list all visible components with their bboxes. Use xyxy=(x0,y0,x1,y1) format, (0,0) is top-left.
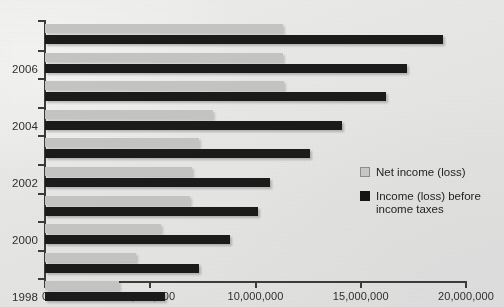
bar-pretax-income xyxy=(45,235,230,244)
y-axis-tick xyxy=(38,20,45,22)
bar-pretax-income xyxy=(45,292,165,301)
x-axis-tick xyxy=(360,281,362,288)
y-axis-label-2002: 2002 xyxy=(0,177,38,189)
bar-pretax-income xyxy=(45,207,258,216)
legend-label-net-income: Net income (loss) xyxy=(376,166,465,179)
x-axis-label-3: 15,000,000 xyxy=(333,290,389,302)
bar-pretax-income xyxy=(45,121,342,130)
bar-net-income xyxy=(45,138,199,147)
y-axis-tick xyxy=(38,193,45,195)
y-axis-label-1998: 1998 xyxy=(0,291,38,303)
y-axis-tick xyxy=(38,250,45,252)
y-axis-tick xyxy=(38,78,45,80)
y-axis-tick xyxy=(38,221,45,223)
y-axis-tick xyxy=(38,135,45,137)
x-axis-tick xyxy=(465,281,467,288)
y-axis-label-2006: 2006 xyxy=(0,63,38,75)
bar-net-income xyxy=(45,81,284,90)
bar-pretax-income xyxy=(45,92,386,101)
x-axis-label-2: 10,000,000 xyxy=(227,290,283,302)
legend-item-pretax-income: Income (loss) before income taxes xyxy=(360,190,500,216)
y-axis-tick xyxy=(38,50,45,52)
bar-net-income xyxy=(45,167,192,176)
bar-net-income xyxy=(45,196,190,205)
x-axis-tick xyxy=(255,281,257,288)
legend-item-net-income: Net income (loss) xyxy=(360,166,500,179)
y-axis-tick xyxy=(38,107,45,109)
bar-pretax-income xyxy=(45,64,407,73)
legend-swatch-pretax-income xyxy=(360,191,370,201)
legend-swatch-net-income xyxy=(360,167,370,177)
bar-pretax-income xyxy=(45,178,270,187)
x-axis-label-4: 20,000,000 xyxy=(438,290,494,302)
y-axis-tick xyxy=(38,164,45,166)
bar-chart: 20062004200220001998 05,000,00010,000,00… xyxy=(0,0,504,307)
bar-net-income xyxy=(45,53,283,62)
y-axis-label-2004: 2004 xyxy=(0,120,38,132)
x-axis-tick xyxy=(149,281,151,288)
bar-net-income xyxy=(45,224,161,233)
bar-pretax-income xyxy=(45,149,310,158)
bar-pretax-income xyxy=(45,264,199,273)
bar-net-income xyxy=(45,253,136,262)
y-axis-label-2000: 2000 xyxy=(0,234,38,246)
bar-net-income xyxy=(45,281,119,290)
bar-pretax-income xyxy=(45,35,443,44)
legend: Net income (loss) Income (loss) before i… xyxy=(360,166,500,227)
legend-label-pretax-income: Income (loss) before income taxes xyxy=(376,190,500,216)
bar-net-income xyxy=(45,110,213,119)
bar-net-income xyxy=(45,24,283,33)
